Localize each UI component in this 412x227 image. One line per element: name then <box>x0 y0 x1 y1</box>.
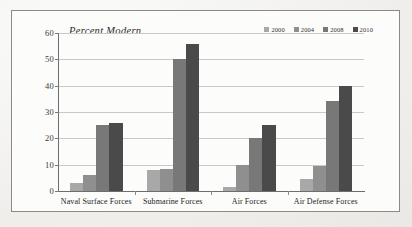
x-axis-tick-mark <box>135 191 136 195</box>
y-axis-tick-label: 60 <box>20 28 54 38</box>
y-axis-tick-label: 40 <box>20 81 54 91</box>
y-axis-tick-mark <box>55 59 59 60</box>
category-label: Naval Surface Forces <box>61 197 132 206</box>
x-axis-category-labels: Naval Surface ForcesSubmarine ForcesAir … <box>58 11 364 211</box>
y-axis-labels: 6050403020100 <box>16 33 54 191</box>
y-axis-tick-mark <box>55 112 59 113</box>
category-label: Submarine Forces <box>143 197 203 206</box>
y-axis-tick-mark <box>55 86 59 87</box>
category-label: Air Defense Forces <box>294 197 358 206</box>
y-axis-tick-label: 20 <box>20 133 54 143</box>
x-axis-tick-mark <box>211 191 212 195</box>
y-axis-tick-mark <box>55 138 59 139</box>
plot-wrapper: 6050403020100 Naval Surface ForcesSubmar… <box>12 11 399 211</box>
y-axis-tick-label: 30 <box>20 107 54 117</box>
y-axis-tick-mark <box>55 165 59 166</box>
y-axis-tick-label: 50 <box>20 54 54 64</box>
y-axis-tick-label: 0 <box>20 186 54 196</box>
chart-figure-frame: Percent Modern 2000200420082010 60504030… <box>11 10 400 212</box>
x-axis-tick-mark <box>288 191 289 195</box>
y-axis-tick-mark <box>55 191 59 192</box>
y-axis-tick-label: 10 <box>20 160 54 170</box>
category-label: Air Forces <box>232 197 267 206</box>
y-axis-tick-mark <box>55 33 59 34</box>
